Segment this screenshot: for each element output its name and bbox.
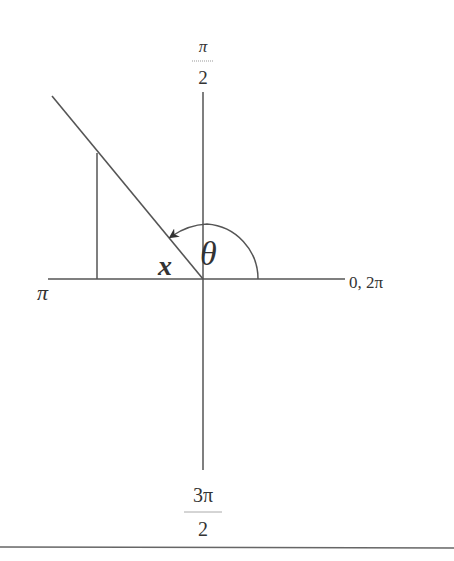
label-bottom-denominator: 2 xyxy=(198,518,208,540)
bottom-rule xyxy=(0,547,454,548)
theta-label: θ xyxy=(200,235,217,272)
label-bottom-numerator: 3π xyxy=(193,484,213,506)
label-top-denominator: 2 xyxy=(198,67,208,88)
label-left: π xyxy=(37,280,49,305)
label-right: 0, 2π xyxy=(349,273,384,292)
angle-diagram: π 2 3π 2 π 0, 2π θ x xyxy=(0,0,454,561)
label-top-numerator: π xyxy=(199,37,208,56)
reference-angle-label: x xyxy=(157,250,172,281)
terminal-side-line xyxy=(52,96,203,279)
